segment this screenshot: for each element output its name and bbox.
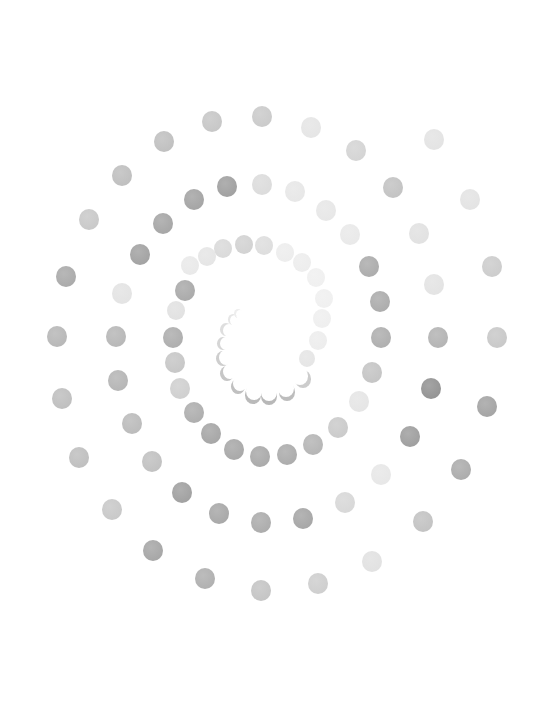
- watercolor-dot: [413, 511, 433, 532]
- watercolor-dot: [251, 580, 271, 601]
- watercolor-dot: [285, 181, 305, 202]
- watercolor-dot: [106, 326, 126, 347]
- watercolor-dot: [235, 235, 253, 254]
- watercolor-dot: [424, 274, 444, 295]
- watercolor-dot: [482, 256, 502, 277]
- watercolor-dot: [349, 391, 369, 412]
- watercolor-dot: [400, 426, 420, 447]
- watercolor-dot: [255, 236, 273, 255]
- watercolor-dot: [370, 291, 390, 312]
- watercolor-dot: [313, 309, 331, 328]
- crescent-dot: [220, 337, 232, 350]
- watercolor-dot: [181, 256, 199, 275]
- watercolor-dot: [154, 131, 174, 152]
- watercolor-dot: [142, 451, 162, 472]
- crescent-dot: [292, 367, 308, 385]
- watercolor-dot: [371, 327, 391, 348]
- crescent-dot: [223, 324, 235, 337]
- crescent-dot: [278, 379, 294, 397]
- watercolor-dot: [451, 459, 471, 480]
- watercolor-dot: [307, 268, 325, 287]
- watercolor-dot: [184, 402, 204, 423]
- watercolor-dot: [251, 512, 271, 533]
- crescent-dot: [246, 382, 262, 400]
- crescent-dot: [236, 310, 244, 319]
- watercolor-dot: [47, 326, 67, 347]
- watercolor-dot: [56, 266, 76, 287]
- watercolor-dot: [165, 352, 185, 373]
- watercolor-dot: [308, 573, 328, 594]
- watercolor-dot: [112, 283, 132, 304]
- watercolor-dot: [477, 396, 497, 417]
- watercolor-dot: [167, 301, 185, 320]
- watercolor-dot: [277, 444, 297, 465]
- watercolor-dot: [309, 331, 327, 350]
- watercolor-dot: [371, 464, 391, 485]
- watercolor-dot: [102, 499, 122, 520]
- watercolor-dot: [184, 189, 204, 210]
- watercolor-dot: [143, 540, 163, 561]
- watercolor-dot: [163, 327, 183, 348]
- watercolor-dot: [409, 223, 429, 244]
- watercolor-dot: [209, 503, 229, 524]
- watercolor-dot: [346, 140, 366, 161]
- watercolor-dot: [79, 209, 99, 230]
- watercolor-dot: [299, 350, 315, 367]
- watercolor-dot: [224, 439, 244, 460]
- watercolor-dot: [460, 189, 480, 210]
- watercolor-dot: [175, 280, 195, 301]
- watercolor-dot: [335, 492, 355, 513]
- watercolor-dot: [316, 200, 336, 221]
- crescent-dot: [233, 376, 247, 391]
- watercolor-dot: [340, 224, 360, 245]
- watercolor-dot: [172, 482, 192, 503]
- watercolor-dot: [301, 117, 321, 138]
- watercolor-dot: [153, 213, 173, 234]
- watercolor-dot: [52, 388, 72, 409]
- watercolor-dot: [252, 174, 272, 195]
- watercolor-dot: [195, 568, 215, 589]
- watercolor-dot: [69, 447, 89, 468]
- watercolor-dot: [362, 551, 382, 572]
- watercolor-dot: [293, 508, 313, 529]
- watercolor-dot: [122, 413, 142, 434]
- watercolor-dot: [108, 370, 128, 391]
- watercolor-dot: [315, 289, 333, 308]
- watercolor-dot: [362, 362, 382, 383]
- watercolor-dot: [112, 165, 132, 186]
- watercolor-dot: [303, 434, 323, 455]
- crescent-dot: [261, 383, 277, 401]
- watercolor-dot: [359, 256, 379, 277]
- watercolor-dot: [421, 378, 441, 399]
- watercolor-dot: [214, 239, 232, 258]
- watercolor-dot: [250, 446, 270, 467]
- watercolor-dot: [202, 111, 222, 132]
- watercolor-dot: [293, 253, 311, 272]
- watercolor-dot: [130, 244, 150, 265]
- watercolor-dot: [328, 417, 348, 438]
- watercolor-dot: [170, 378, 190, 399]
- watercolor-dot: [383, 177, 403, 198]
- watercolor-dot: [217, 176, 237, 197]
- watercolor-dot: [201, 423, 221, 444]
- watercolor-dot: [487, 327, 507, 348]
- dot-spiral-artwork: [0, 0, 536, 706]
- watercolor-dot: [276, 243, 294, 262]
- watercolor-dot: [424, 129, 444, 150]
- watercolor-dot: [252, 106, 272, 127]
- watercolor-dot: [428, 327, 448, 348]
